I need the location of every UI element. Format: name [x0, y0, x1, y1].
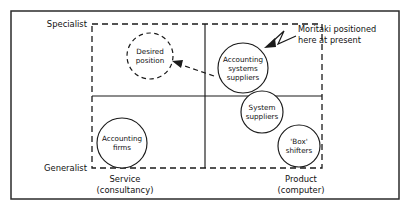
accounting-firms-label-line2: firms	[113, 143, 131, 152]
axis-label-specialist: Specialist	[47, 19, 88, 29]
accounting-systems-suppliers-label-line1: Accounting	[223, 55, 263, 64]
accounting-firms-label-line1: Accounting	[102, 134, 142, 143]
system-suppliers-label-line2: suppliers	[246, 112, 279, 121]
positioning-matrix-figure: Specialist Generalist Service (consultan…	[0, 0, 410, 210]
move-arrow-head-icon	[172, 60, 183, 68]
axis-label-product-line2: (computer)	[278, 185, 325, 195]
box-shifters-label-line1: 'Box'	[290, 137, 307, 146]
axis-label-generalist: Generalist	[44, 163, 88, 173]
axis-label-service-line1: Service	[110, 174, 141, 184]
accounting-systems-suppliers-label-line2: systems	[228, 64, 258, 73]
axis-label-service-line2: (consultancy)	[97, 185, 154, 195]
moritaki-annotation-line2: here at present	[298, 35, 362, 45]
moritaki-annotation-line1: Moritaki positioned	[298, 24, 376, 34]
desired-position-label-line1: Desired	[136, 47, 163, 56]
system-suppliers-label-line1: System	[249, 103, 276, 112]
callout-arrow-head-icon	[264, 38, 276, 48]
move-arrow-line	[179, 64, 214, 76]
callout-zigzag-leader	[272, 31, 296, 44]
axis-label-product-line1: Product	[285, 174, 318, 184]
box-shifters-label-line2: shifters	[286, 146, 313, 155]
accounting-systems-suppliers-label-line3: suppliers	[227, 73, 260, 82]
desired-position-label-line2: position	[136, 56, 164, 65]
